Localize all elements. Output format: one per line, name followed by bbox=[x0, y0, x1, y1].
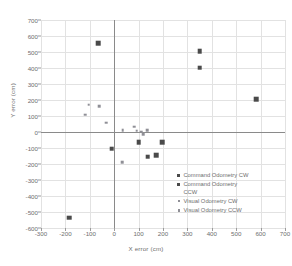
y-tick-label: 600 bbox=[28, 33, 38, 40]
x-tick-label: 0 bbox=[112, 230, 115, 237]
legend-item: Visual Odometry CW bbox=[177, 198, 248, 206]
data-point bbox=[96, 41, 101, 46]
y-tick-mark bbox=[38, 36, 41, 37]
x-tick-label: -100 bbox=[84, 230, 96, 237]
gridline-horizontal bbox=[41, 52, 285, 53]
gridline-horizontal bbox=[41, 36, 285, 37]
data-point bbox=[135, 129, 138, 132]
y-tick-label: -400 bbox=[26, 193, 38, 200]
data-point bbox=[121, 161, 124, 164]
data-point bbox=[145, 155, 150, 160]
legend-label: Command Odometry CW bbox=[183, 172, 248, 180]
y-tick-label: 400 bbox=[28, 65, 38, 72]
data-point bbox=[254, 97, 259, 102]
data-point bbox=[136, 140, 141, 145]
y-tick-label: 200 bbox=[28, 97, 38, 104]
y-tick-label: -200 bbox=[26, 161, 38, 168]
y-tick-mark bbox=[38, 68, 41, 69]
data-point bbox=[98, 105, 101, 108]
y-tick-label: -600 bbox=[26, 225, 38, 232]
scatter-chart-figure: Y error (cm) X error (cm) -300-200-10001… bbox=[0, 0, 292, 266]
y-tick-mark bbox=[38, 84, 41, 85]
y-axis-line bbox=[114, 20, 115, 228]
y-tick-mark bbox=[38, 132, 41, 133]
data-point bbox=[160, 140, 165, 145]
x-axis-title: X error (cm) bbox=[0, 245, 292, 252]
y-tick-label: -300 bbox=[26, 177, 38, 184]
y-tick-mark bbox=[38, 148, 41, 149]
data-point bbox=[84, 113, 87, 116]
legend-label: Visual Odometry CCW bbox=[184, 207, 242, 215]
legend-marker-icon bbox=[178, 209, 180, 211]
y-tick-label: 700 bbox=[28, 17, 38, 24]
data-point bbox=[133, 125, 136, 128]
legend-item: Command Odometry CCW bbox=[177, 181, 248, 196]
x-tick-label: 100 bbox=[133, 230, 143, 237]
legend-label: Visual Odometry CW bbox=[184, 198, 238, 206]
data-point bbox=[146, 129, 149, 132]
data-point bbox=[121, 129, 124, 132]
x-tick-label: 300 bbox=[182, 230, 192, 237]
gridline-horizontal bbox=[41, 68, 285, 69]
x-tick-label: 600 bbox=[255, 230, 265, 237]
legend-item: Visual Odometry CCW bbox=[177, 207, 248, 215]
y-tick-label: -500 bbox=[26, 209, 38, 216]
legend-marker-icon bbox=[177, 183, 180, 186]
y-tick-mark bbox=[38, 164, 41, 165]
gridline-horizontal bbox=[41, 84, 285, 85]
gridline-vertical bbox=[285, 20, 286, 228]
data-point bbox=[87, 104, 90, 107]
y-tick-mark bbox=[38, 196, 41, 197]
legend-label: Command Odometry CCW bbox=[183, 181, 237, 196]
y-tick-label: 300 bbox=[28, 81, 38, 88]
data-point bbox=[197, 65, 202, 70]
x-tick-label: 200 bbox=[158, 230, 168, 237]
x-tick-label: -200 bbox=[59, 230, 71, 237]
data-point bbox=[197, 49, 202, 54]
y-axis-title: Y error (cm) bbox=[9, 65, 16, 137]
gridline-horizontal bbox=[41, 148, 285, 149]
y-tick-mark bbox=[38, 228, 41, 229]
data-point bbox=[109, 146, 114, 151]
data-point bbox=[154, 153, 159, 158]
y-tick-mark bbox=[38, 116, 41, 117]
legend-marker-icon bbox=[177, 174, 180, 177]
chart-legend: Command Odometry CWCommand Odometry CCWV… bbox=[177, 172, 248, 216]
gridline-horizontal bbox=[41, 164, 285, 165]
y-tick-label: 100 bbox=[28, 113, 38, 120]
y-tick-mark bbox=[38, 100, 41, 101]
y-tick-mark bbox=[38, 20, 41, 21]
y-tick-label: 500 bbox=[28, 49, 38, 56]
data-point bbox=[67, 215, 72, 220]
y-tick-label: -100 bbox=[26, 145, 38, 152]
x-tick-label: 400 bbox=[207, 230, 217, 237]
gridline-horizontal bbox=[41, 20, 285, 21]
data-point bbox=[142, 133, 145, 136]
legend-item: Command Odometry CW bbox=[177, 172, 248, 180]
gridline-horizontal bbox=[41, 116, 285, 117]
x-tick-label: 700 bbox=[280, 230, 290, 237]
y-tick-mark bbox=[38, 52, 41, 53]
data-point bbox=[105, 121, 108, 124]
gridline-horizontal bbox=[41, 100, 285, 101]
x-tick-label: 500 bbox=[231, 230, 241, 237]
y-tick-mark bbox=[38, 212, 41, 213]
legend-marker-icon bbox=[178, 200, 180, 202]
y-tick-mark bbox=[38, 180, 41, 181]
x-axis-line bbox=[41, 132, 285, 133]
